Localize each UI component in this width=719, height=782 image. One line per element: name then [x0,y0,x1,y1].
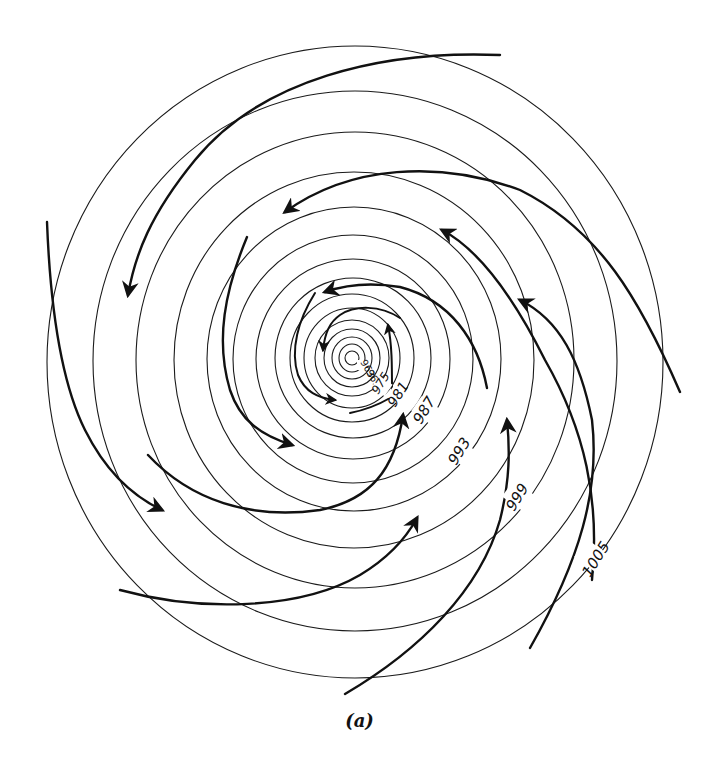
streamline-bottom-left [120,518,417,604]
streamline-core-left [295,293,335,400]
figure-caption: (a) [0,710,719,731]
isobar-ring-999 [136,132,574,588]
streamline-bottom-right [520,300,594,648]
isobar-ring-987 [233,235,473,483]
streamline-top-left [128,54,500,295]
isobar-ring-981 [275,278,431,438]
streamline-bottom-center [345,420,509,694]
streamline-top-right [285,171,680,392]
cyclone-isobar-diagram: 963 969 975 981 987 993 999 1005 [0,0,719,782]
isobar-ring-1005 [47,46,663,678]
isobar-ring-984 [256,259,450,459]
streamlines [47,54,680,694]
isobar-ring-center [345,351,359,365]
isobar-rings [47,46,663,678]
